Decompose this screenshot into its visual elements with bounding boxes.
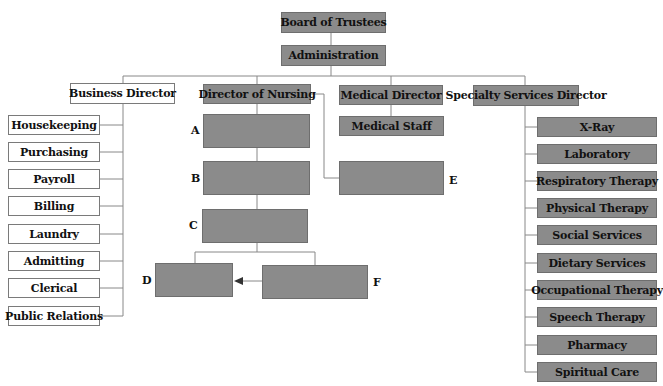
blank-box-c bbox=[202, 209, 308, 243]
unit-billing: Billing bbox=[8, 196, 100, 216]
unit-spiritual-care: Spiritual Care bbox=[537, 362, 657, 382]
unit-laundry: Laundry bbox=[8, 224, 100, 244]
blank-box-e bbox=[339, 161, 444, 195]
unit-speech-therapy: Speech Therapy bbox=[537, 307, 657, 327]
unit-housekeeping: Housekeeping bbox=[8, 115, 100, 135]
label-f: F bbox=[373, 276, 381, 289]
blank-box-d bbox=[155, 263, 233, 297]
director-of-nursing-box: Director of Nursing bbox=[203, 84, 311, 104]
label-d: D bbox=[142, 274, 152, 287]
specialty-services-director-box: Specialty Services Director bbox=[473, 85, 579, 106]
unit-x-ray: X-Ray bbox=[537, 117, 657, 137]
administration-box: Administration bbox=[281, 45, 386, 66]
unit-purchasing: Purchasing bbox=[8, 142, 100, 162]
label-a: A bbox=[191, 124, 200, 137]
unit-laboratory: Laboratory bbox=[537, 144, 657, 164]
unit-clerical: Clerical bbox=[8, 278, 100, 298]
label-b: B bbox=[191, 172, 200, 185]
medical-director-box: Medical Director bbox=[339, 85, 443, 105]
unit-social-services: Social Services bbox=[537, 225, 657, 245]
arrow-icon bbox=[234, 277, 243, 285]
unit-public-relations: Public Relations bbox=[8, 306, 100, 326]
label-e: E bbox=[449, 174, 457, 187]
unit-occupational-therapy: Occupational Therapy bbox=[537, 280, 657, 300]
label-c: C bbox=[189, 219, 198, 232]
board-of-trustees-box: Board of Trustees bbox=[281, 12, 386, 33]
medical-staff-box: Medical Staff bbox=[339, 116, 444, 136]
blank-box-b bbox=[203, 161, 310, 195]
unit-payroll: Payroll bbox=[8, 169, 100, 189]
unit-dietary-services: Dietary Services bbox=[537, 253, 657, 273]
blank-box-f bbox=[262, 265, 368, 299]
unit-pharmacy: Pharmacy bbox=[537, 335, 657, 355]
blank-box-a bbox=[203, 114, 310, 148]
unit-admitting: Admitting bbox=[8, 251, 100, 271]
unit-physical-therapy: Physical Therapy bbox=[537, 198, 657, 218]
business-director-box: Business Director bbox=[70, 83, 175, 104]
unit-respiratory-therapy: Respiratory Therapy bbox=[537, 171, 657, 191]
